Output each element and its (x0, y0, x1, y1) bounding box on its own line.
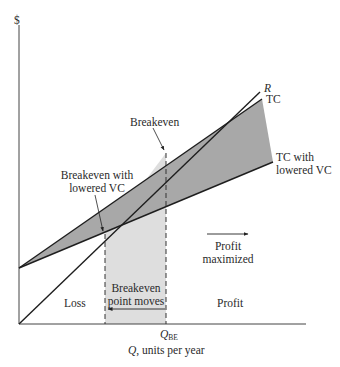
q-breakeven-tick-label: QBE (160, 328, 178, 344)
loss-region-label: Loss (64, 297, 86, 310)
y-axis-label: $ (14, 14, 20, 27)
breakeven-lowered-label: Breakeven with lowered VC (57, 169, 137, 195)
profit-maximized-label: Profit maximized (198, 240, 258, 266)
tc-lowered-vc-label: TC with lowered VC (276, 151, 332, 177)
breakeven-moves-label: Breakeven point moves (105, 282, 167, 308)
breakeven-diagram (0, 0, 340, 367)
breakeven-label: Breakeven (130, 116, 179, 129)
profit-region-label: Profit (217, 297, 243, 310)
x-axis-label: Q, units per year (128, 344, 205, 357)
total-cost-label: TC (266, 93, 281, 106)
breakeven-pointer (153, 128, 164, 150)
